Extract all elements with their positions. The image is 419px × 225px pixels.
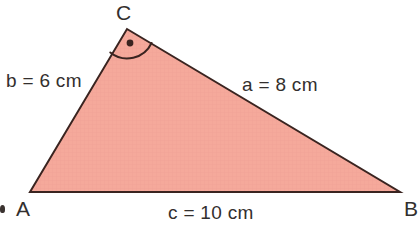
vertex-label-b: B [404,198,418,219]
triangle-diagram: C A B b = 6 cm a = 8 cm c = 10 cm [0,0,419,225]
vertex-label-c: C [116,2,131,23]
scan-artifact-mark [0,205,5,213]
triangle-shape [30,29,400,192]
side-label-b: b = 6 cm [6,71,82,90]
vertex-label-a: A [16,198,30,219]
side-label-a: a = 8 cm [242,75,318,94]
triangle-svg [0,0,419,225]
side-label-c: c = 10 cm [168,203,254,222]
